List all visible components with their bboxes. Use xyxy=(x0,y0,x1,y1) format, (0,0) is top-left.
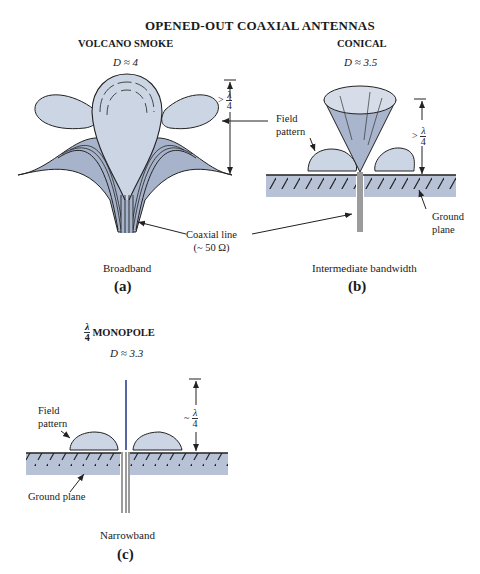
panel-a-directivity: D ≈ 4 xyxy=(113,56,138,68)
panel-a-label: (a) xyxy=(114,278,132,295)
panel-c-label: (c) xyxy=(117,546,134,563)
coaxial-arrow-b xyxy=(252,214,352,234)
field-lobe-left xyxy=(308,149,357,171)
conical-antenna xyxy=(308,86,414,232)
panel-a-height-label: > λ4 xyxy=(218,90,232,111)
field-pattern-label-c: Field pattern xyxy=(38,404,67,430)
field-lobe-right xyxy=(133,432,182,450)
field-lobe-left xyxy=(70,432,118,450)
field-lobe-right xyxy=(162,95,219,129)
ground-plane-b xyxy=(266,175,456,197)
panel-b-label: (b) xyxy=(348,278,366,295)
panel-c-height-label: ~ λ4 xyxy=(184,408,198,429)
figure-title: OPENED-OUT COAXIAL ANTENNAS xyxy=(145,18,375,34)
coaxial-arrow-a xyxy=(138,222,186,234)
field-lobe-left xyxy=(35,95,98,129)
panel-b-bandwidth: Intermediate bandwidth xyxy=(312,262,417,274)
field-lobe-right xyxy=(375,148,415,171)
ground-plane-c xyxy=(26,453,228,475)
ground-plane-label-c: Ground plane xyxy=(28,490,85,503)
panel-c-bandwidth: Narrowband xyxy=(100,529,155,541)
panel-a-bandwidth: Broadband xyxy=(103,262,151,274)
antenna-diagram-graphics xyxy=(0,0,480,574)
field-pattern-label-a: Field pattern xyxy=(276,112,305,138)
monopole-antenna xyxy=(70,380,182,513)
panel-b-directivity: D ≈ 3.5 xyxy=(344,56,377,68)
panel-a-name: VOLCANO SMOKE xyxy=(78,38,173,49)
panel-b-name: CONICAL xyxy=(337,38,387,49)
coaxial-line-label: Coaxial line (~ 50 Ω) xyxy=(186,228,237,254)
field-pattern-arrow-c xyxy=(61,431,70,438)
volcano-smoke-antenna xyxy=(18,74,232,233)
panel-c-directivity: D ≈ 3.3 xyxy=(110,347,143,359)
field-pattern-arrow-b xyxy=(310,138,315,151)
panel-c-name: λ4 MONOPOLE xyxy=(84,322,155,343)
panel-b-height-label: > λ4 xyxy=(412,126,426,147)
ground-plane-label-b: Ground plane xyxy=(432,210,464,236)
